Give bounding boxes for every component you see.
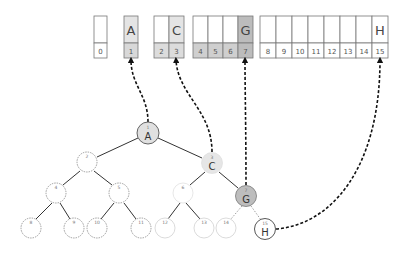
array-index-12: 12 xyxy=(328,48,337,56)
arrow-node1-to-cell1 xyxy=(131,60,148,122)
array-value-1: A xyxy=(127,23,136,38)
svg-text:G: G xyxy=(242,194,250,205)
array-level-4 xyxy=(260,16,388,58)
svg-text:H: H xyxy=(261,227,269,238)
array-index-4: 4 xyxy=(198,48,203,56)
svg-text:2: 2 xyxy=(86,154,89,159)
array-index-1: 1 xyxy=(129,48,133,56)
tree-node-13: 13 xyxy=(194,218,214,238)
array-index-3: 3 xyxy=(174,48,178,56)
tree-node-12: 12 xyxy=(155,218,175,238)
svg-text:3: 3 xyxy=(211,155,214,160)
array-index-0: 0 xyxy=(98,48,102,56)
svg-text:13: 13 xyxy=(201,220,207,225)
svg-text:A: A xyxy=(145,131,152,142)
array-index-10: 10 xyxy=(296,48,305,56)
array-index-13: 13 xyxy=(344,48,353,56)
arrow-node15-to-cell15 xyxy=(276,60,380,229)
tree-edges-dotted xyxy=(231,206,261,220)
arrow-node3-to-cell3 xyxy=(176,60,212,152)
svg-text:9: 9 xyxy=(73,220,76,225)
svg-text:10: 10 xyxy=(94,220,100,225)
tree-node-3: 3 C xyxy=(202,153,223,174)
svg-text:15: 15 xyxy=(262,221,268,226)
array-index-5: 5 xyxy=(213,48,217,56)
tree-node-1: 1 A xyxy=(137,122,159,144)
svg-text:11: 11 xyxy=(138,220,144,225)
array-index-6: 6 xyxy=(228,48,233,56)
array-value-3: C xyxy=(172,23,181,38)
tree-node-15: 15 H xyxy=(255,219,276,240)
array-value-7: G xyxy=(240,23,250,38)
arrow-node7-to-cell7 xyxy=(245,60,246,185)
svg-text:8: 8 xyxy=(30,220,33,225)
tree-node-4: 4 xyxy=(46,183,66,203)
tree-node-7: 7 G xyxy=(236,186,257,207)
svg-text:5: 5 xyxy=(118,185,121,190)
tree-node-11: 11 xyxy=(131,218,151,238)
tree-node-2: 2 xyxy=(77,152,97,172)
svg-text:4: 4 xyxy=(55,185,58,190)
tree-node-14: 14 xyxy=(216,218,236,238)
tree-node-6: 6 xyxy=(173,183,193,203)
tree-node-9: 9 xyxy=(64,218,84,238)
svg-text:7: 7 xyxy=(245,188,248,193)
array-index-9: 9 xyxy=(282,48,286,56)
pointer-arrows xyxy=(131,60,380,229)
array-index-2: 2 xyxy=(159,48,163,56)
array-index-14: 14 xyxy=(360,48,369,56)
svg-text:1: 1 xyxy=(147,125,150,130)
tree-node-5: 5 xyxy=(109,183,129,203)
svg-text:14: 14 xyxy=(223,220,229,225)
array-index-15: 15 xyxy=(376,48,385,56)
svg-text:12: 12 xyxy=(162,220,168,225)
tree-node-10: 10 xyxy=(87,218,107,238)
tree-array-diagram: 0 A 1 2 C 3 4 5 6 G 7 xyxy=(0,0,406,259)
array-index-7: 7 xyxy=(243,48,247,56)
array-index-11: 11 xyxy=(312,48,321,56)
svg-text:C: C xyxy=(209,161,216,172)
tree-edges xyxy=(36,138,238,219)
array-value-15: H xyxy=(375,23,385,38)
svg-text:6: 6 xyxy=(182,185,185,190)
tree-node-8: 8 xyxy=(21,218,41,238)
array-index-8: 8 xyxy=(266,48,270,56)
